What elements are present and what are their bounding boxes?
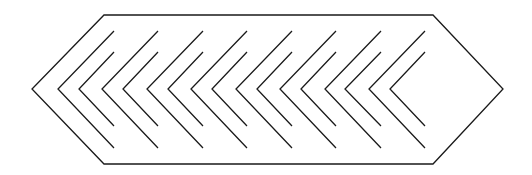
chevron-group	[58, 31, 425, 148]
chevron-outer	[280, 31, 336, 148]
chevron-inner	[79, 52, 114, 126]
chevron-outer	[102, 31, 158, 148]
chevron-outer	[369, 31, 425, 148]
chevron-hexagon-diagram	[0, 0, 532, 175]
chevron-inner	[123, 52, 158, 126]
chevron-outer	[58, 31, 114, 148]
chevron-inner	[168, 52, 203, 126]
chevron-outer	[191, 31, 247, 148]
chevron-inner	[257, 52, 292, 126]
chevron-inner	[390, 52, 425, 126]
chevron-outer	[325, 31, 381, 148]
chevron-inner	[212, 52, 247, 126]
chevron-outer	[236, 31, 292, 148]
chevron-outer	[147, 31, 203, 148]
chevron-inner	[301, 52, 336, 126]
